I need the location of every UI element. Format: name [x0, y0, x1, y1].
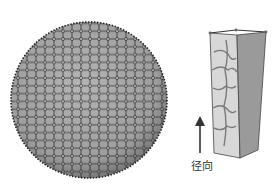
extracted-cell	[0, 0, 279, 190]
cell-dark-face	[237, 32, 266, 158]
radial-direction-label: 径向	[191, 157, 213, 173]
radial-arrow-icon	[195, 116, 205, 153]
